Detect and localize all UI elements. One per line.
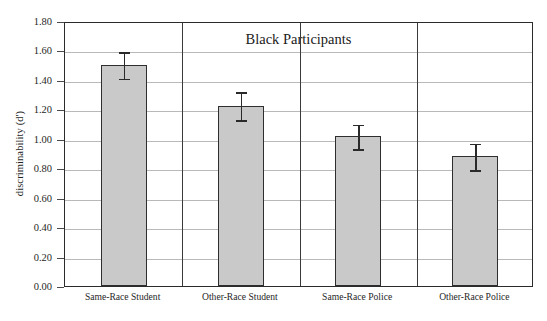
error-bar-cap-bottom (470, 170, 481, 172)
error-bar (475, 144, 476, 172)
gridline (65, 52, 532, 53)
y-axis-tick-label: 1.60 (8, 45, 52, 56)
category-separator (300, 23, 301, 286)
y-axis-tick-label: 1.00 (8, 134, 52, 145)
bar (335, 136, 381, 286)
bar (218, 106, 264, 286)
y-axis-tick-label: 1.20 (8, 104, 52, 115)
y-axis-tick-mark (57, 22, 64, 23)
error-bar-cap-top (470, 144, 481, 146)
category-separator (417, 23, 418, 286)
error-bar-stem (241, 92, 243, 121)
error-bar-cap-bottom (353, 149, 364, 151)
y-axis-tick-label: 0.20 (8, 252, 52, 263)
y-axis-title: discriminability (d') (14, 69, 25, 239)
plot-inner (65, 23, 532, 286)
x-axis-tick-label: Same-Race Police (299, 291, 416, 303)
error-bar-stem (358, 125, 360, 152)
error-bar-cap-top (236, 92, 247, 94)
error-bar-stem (475, 144, 477, 172)
y-axis-tick-label: 1.40 (8, 75, 52, 86)
error-bar-cap-top (353, 125, 364, 127)
bar (101, 65, 147, 286)
error-bar-stem (124, 52, 126, 80)
error-bar-cap-bottom (236, 120, 247, 122)
error-bar (358, 125, 359, 152)
error-bar (124, 52, 125, 80)
y-axis-tick-mark (57, 228, 64, 229)
error-bar-cap-bottom (119, 79, 130, 81)
category-separator (182, 23, 183, 286)
plot-area: Black Participants (64, 22, 533, 287)
y-axis-tick-label: 0.60 (8, 193, 52, 204)
y-axis-tick-mark (57, 258, 64, 259)
x-axis-tick-label: Other-Race Police (416, 291, 533, 303)
y-axis-tick-label: 1.80 (8, 16, 52, 27)
y-axis-tick-mark (57, 199, 64, 200)
error-bar (241, 92, 242, 121)
y-axis-tick-mark (57, 51, 64, 52)
y-axis-tick-mark (57, 287, 64, 288)
y-axis-tick-mark (57, 81, 64, 82)
x-axis-tick-label: Same-Race Student (64, 291, 181, 303)
y-axis-tick-label: 0.40 (8, 222, 52, 233)
x-axis-tick-label: Other-Race Student (181, 291, 298, 303)
y-axis-tick-mark (57, 169, 64, 170)
bar-chart: discriminability (d') 0.000.200.400.600.… (0, 0, 547, 321)
y-axis-tick-label: 0.00 (8, 281, 52, 292)
y-axis-tick-mark (57, 140, 64, 141)
error-bar-cap-top (119, 52, 130, 54)
bar (452, 156, 498, 286)
y-axis-tick-label: 0.80 (8, 163, 52, 174)
y-axis-tick-mark (57, 110, 64, 111)
